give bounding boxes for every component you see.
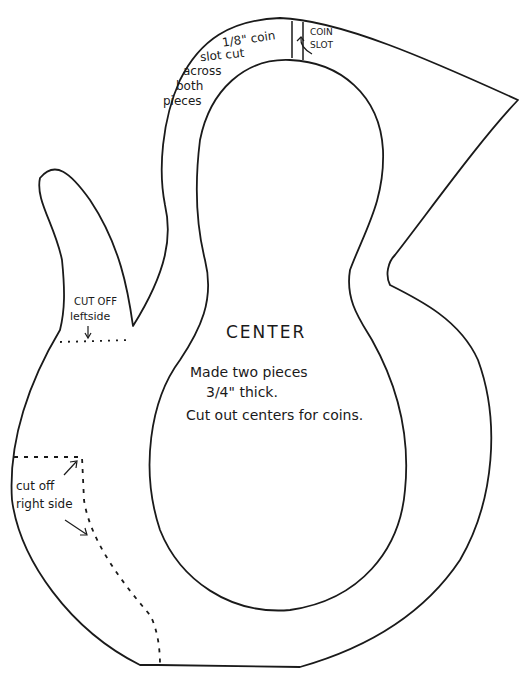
cut-left-label-line2: leftside [70,310,110,323]
cut-right-label-line1: cut off [16,479,54,493]
instructions-line1: Made two pieces [190,364,308,381]
center-title: CENTER [226,322,306,342]
coin-slot-label-line1: COIN [310,27,333,38]
instructions-line2: 3/4" thick. [206,384,278,401]
cut-right-arrow-up-icon [64,462,76,475]
coin-slot-note-line5: pieces [163,94,202,108]
coin-slot-note-line4: both [176,79,203,93]
cut-left-label-line1: CUT OFF [74,296,117,308]
cut-left-dotted-line [60,340,130,342]
coin-slot-label-line2: SLOT [310,40,333,51]
cut-right-label-line2: right side [16,497,73,511]
instructions-line3: Cut out centers for coins. [186,407,363,424]
outer-outline [12,18,518,667]
cut-right-arrow-down-icon [65,520,86,534]
coin-slot-note-line3: across [183,64,221,78]
